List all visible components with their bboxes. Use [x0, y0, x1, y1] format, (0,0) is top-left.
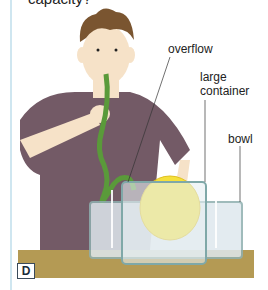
large-container: [122, 182, 206, 264]
panel-letter: D: [17, 263, 35, 279]
label-overflow: overflow: [168, 42, 213, 56]
label-bowl: bowl: [228, 132, 253, 146]
label-large-line2: container: [200, 84, 249, 98]
label-large-line1: large: [200, 70, 227, 84]
